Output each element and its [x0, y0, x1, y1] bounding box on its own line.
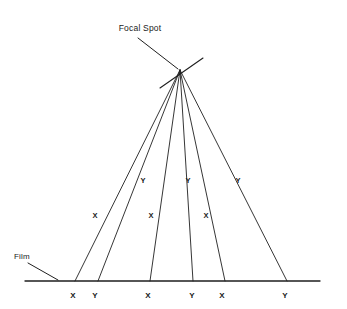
ray-bundle — [75, 70, 287, 281]
ray-3 — [150, 70, 180, 281]
film-leader-line — [28, 263, 58, 280]
ray-6 — [180, 70, 287, 281]
ray-2 — [98, 70, 180, 281]
focal-spot-diagram: Focal Spot Film XYXYXY XYXYXY — [0, 0, 347, 309]
mid-mark-label-x-4: X — [203, 211, 208, 220]
film-mark-label-x-0: X — [70, 291, 76, 300]
film-mark-label-x-2: X — [145, 291, 151, 300]
mid-mark-label-x-2: X — [148, 211, 153, 220]
focal-spot-leader-line — [138, 38, 178, 69]
ray-1 — [75, 70, 180, 281]
mid-mark-label-x-0: X — [92, 211, 97, 220]
mid-mark-label-y-1: Y — [140, 176, 145, 185]
diagram-canvas — [0, 0, 347, 309]
mid-mark-label-y-3: Y — [185, 176, 190, 185]
film-mark-label-y-3: Y — [189, 291, 195, 300]
film-label: Film — [14, 252, 30, 261]
focal-spot-label: Focal Spot — [119, 23, 162, 33]
film-mark-label-y-1: Y — [92, 291, 98, 300]
anode-target-line — [160, 58, 203, 88]
film-mark-label-x-4: X — [219, 291, 225, 300]
mid-mark-label-y-5: Y — [235, 176, 240, 185]
film-mark-label-y-5: Y — [282, 291, 288, 300]
